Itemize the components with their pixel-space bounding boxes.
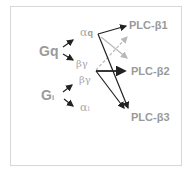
gi-subscript: i (52, 93, 54, 102)
alpha-q-label: αq (80, 26, 93, 39)
plc-b3-label: PLC-β3 (131, 111, 170, 123)
gq-arrows (63, 40, 73, 60)
gq-label: Gq (39, 43, 58, 59)
plc-b2-label: PLC-β2 (131, 65, 170, 77)
beta-gamma-i-label: βγ (79, 74, 91, 85)
alpha-q-subscript: q (87, 28, 93, 38)
beta-gamma-q-label: βγ (76, 58, 88, 69)
alpha-q-to-plc-b1-arrow (98, 26, 126, 34)
gi-arrows (63, 85, 73, 106)
alpha-i-label: αi (80, 101, 90, 114)
alpha-q-to-plc-b2-arrow (101, 37, 127, 58)
alpha-i-subscript: i (87, 105, 89, 113)
gi-label: Gi (41, 87, 54, 103)
beta-gamma-to-plc-b3-arrow (96, 71, 124, 108)
plc-b1-label: PLC-β1 (129, 19, 168, 31)
gi-main: G (41, 87, 52, 103)
